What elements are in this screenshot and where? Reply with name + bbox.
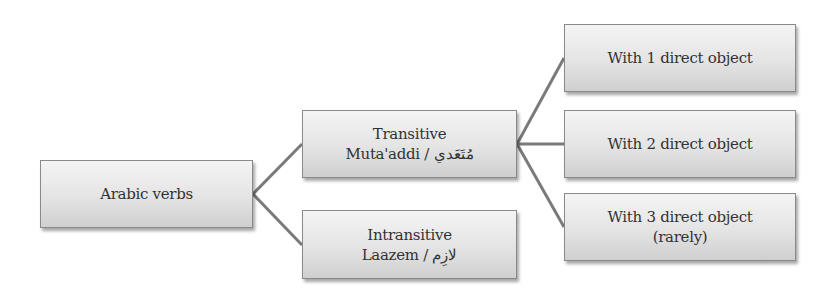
node-sublabel: Laazem / لازِم [362,245,458,265]
node-sublabel: (rarely) [653,227,708,247]
node-label: With 3 direct object [608,207,753,227]
node-label: Arabic verbs [100,184,193,204]
node-with-3-direct-object: With 3 direct object (rarely) [564,193,796,261]
edge-transitive-with1 [517,58,564,144]
node-label: Transitive [373,124,446,144]
node-label: With 2 direct object [608,134,753,154]
node-label: With 1 direct object [608,48,753,68]
edge-root-transitive [253,144,302,194]
edge-transitive-with3 [517,144,564,227]
node-intransitive: Intransitive Laazem / لازِم [302,210,517,279]
node-label: Intransitive [367,225,451,245]
node-arabic-verbs: Arabic verbs [40,160,253,228]
node-with-1-direct-object: With 1 direct object [564,24,796,92]
edge-root-intransitive [253,194,302,245]
node-sublabel: Muta'addi / مُتَعَدي [345,144,473,164]
node-with-2-direct-object: With 2 direct object [564,110,796,178]
node-transitive: Transitive Muta'addi / مُتَعَدي [302,110,517,178]
